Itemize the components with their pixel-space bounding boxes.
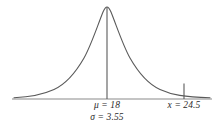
bell-curve-path [14,7,210,98]
mean-label: μ = 18 [94,100,120,111]
normal-distribution-figure: μ = 18 σ = 3.55 x = 24.5 [0,0,218,137]
x-value-label: x = 24.5 [168,100,201,111]
std-dev-label: σ = 3.55 [90,112,123,123]
